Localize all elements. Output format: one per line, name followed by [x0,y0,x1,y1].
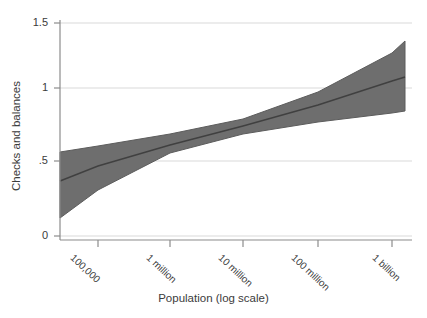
x-axis-ticks [98,240,392,247]
y-axis-ticks [54,23,60,236]
confidence-band [60,41,405,218]
y-axis-title: Checks and balances [10,36,22,236]
chart-container: 1.5 1 .5 0 100,000 1 million 10 million … [0,0,427,318]
chart-plot-area [0,0,427,318]
y-tick-label-1-5: 1.5 [8,16,48,28]
x-axis-title: Population (log scale) [0,292,427,304]
